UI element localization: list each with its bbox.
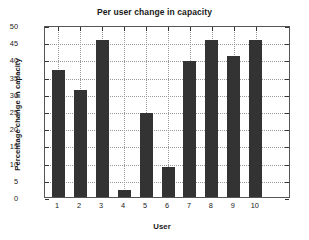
x-tick-label: 5 bbox=[133, 201, 157, 210]
y-tick-mark bbox=[45, 182, 49, 183]
y-tick-mark bbox=[285, 79, 289, 80]
y-tick-mark bbox=[285, 96, 289, 97]
y-tick-label: 40 bbox=[0, 56, 18, 65]
y-tick-label: 45 bbox=[0, 39, 18, 48]
x-tick-mark bbox=[58, 27, 59, 31]
y-tick-mark bbox=[285, 61, 289, 62]
bar bbox=[162, 167, 175, 197]
y-tick-mark bbox=[285, 199, 289, 200]
y-tick-mark bbox=[45, 113, 49, 114]
bar bbox=[52, 70, 65, 197]
x-tick-label: 6 bbox=[155, 201, 179, 210]
bar bbox=[183, 61, 196, 197]
bar bbox=[74, 90, 87, 197]
y-tick-mark bbox=[45, 44, 49, 45]
y-tick-label: 10 bbox=[0, 159, 18, 168]
y-tick-mark bbox=[285, 147, 289, 148]
x-tick-mark bbox=[234, 27, 235, 31]
x-tick-mark bbox=[168, 27, 169, 31]
x-tick-mark bbox=[146, 27, 147, 31]
y-tick-mark bbox=[285, 44, 289, 45]
bar bbox=[118, 190, 131, 197]
y-tick-mark bbox=[45, 96, 49, 97]
y-tick-label: 25 bbox=[0, 108, 18, 117]
y-tick-mark bbox=[285, 130, 289, 131]
plot-area bbox=[44, 26, 290, 198]
y-tick-mark bbox=[285, 165, 289, 166]
y-tick-mark bbox=[45, 130, 49, 131]
y-tick-label: 0 bbox=[0, 194, 18, 203]
y-tick-label: 20 bbox=[0, 125, 18, 134]
figure-canvas: Per user change in capacity Percentage c… bbox=[0, 0, 309, 240]
bar bbox=[96, 40, 109, 197]
y-tick-mark bbox=[285, 27, 289, 28]
x-tick-label: 10 bbox=[243, 201, 267, 210]
x-tick-label: 9 bbox=[221, 201, 245, 210]
x-tick-label: 1 bbox=[45, 201, 69, 210]
y-tick-mark bbox=[45, 165, 49, 166]
x-tick-label: 8 bbox=[199, 201, 223, 210]
bar bbox=[227, 56, 240, 197]
y-tick-label: 30 bbox=[0, 90, 18, 99]
x-tick-mark bbox=[80, 27, 81, 31]
bar bbox=[205, 40, 218, 197]
y-tick-mark bbox=[45, 199, 49, 200]
y-tick-label: 50 bbox=[0, 22, 18, 31]
y-tick-mark bbox=[285, 113, 289, 114]
x-tick-label: 4 bbox=[111, 201, 135, 210]
chart-title: Per user change in capacity bbox=[0, 7, 309, 17]
x-tick-mark bbox=[102, 27, 103, 31]
x-tick-label: 3 bbox=[89, 201, 113, 210]
bar bbox=[140, 113, 153, 197]
y-tick-mark bbox=[285, 182, 289, 183]
y-tick-label: 35 bbox=[0, 73, 18, 82]
gridline-vertical bbox=[124, 27, 125, 197]
y-tick-label: 15 bbox=[0, 142, 18, 151]
y-tick-mark bbox=[45, 79, 49, 80]
x-axis-label: User bbox=[34, 222, 290, 231]
y-tick-mark bbox=[45, 27, 49, 28]
x-tick-mark bbox=[256, 27, 257, 31]
x-tick-label: 2 bbox=[67, 201, 91, 210]
y-tick-mark bbox=[45, 147, 49, 148]
y-tick-label: 5 bbox=[0, 176, 18, 185]
y-tick-mark bbox=[45, 61, 49, 62]
x-tick-label: 7 bbox=[177, 201, 201, 210]
x-tick-mark bbox=[212, 27, 213, 31]
bar bbox=[249, 40, 262, 197]
x-tick-mark bbox=[190, 27, 191, 31]
x-tick-mark bbox=[124, 27, 125, 31]
